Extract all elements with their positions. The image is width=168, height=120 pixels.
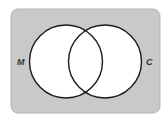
venn-diagram: M C bbox=[0, 0, 168, 120]
set-m-label: M bbox=[17, 57, 25, 67]
set-c-label: C bbox=[146, 57, 153, 67]
